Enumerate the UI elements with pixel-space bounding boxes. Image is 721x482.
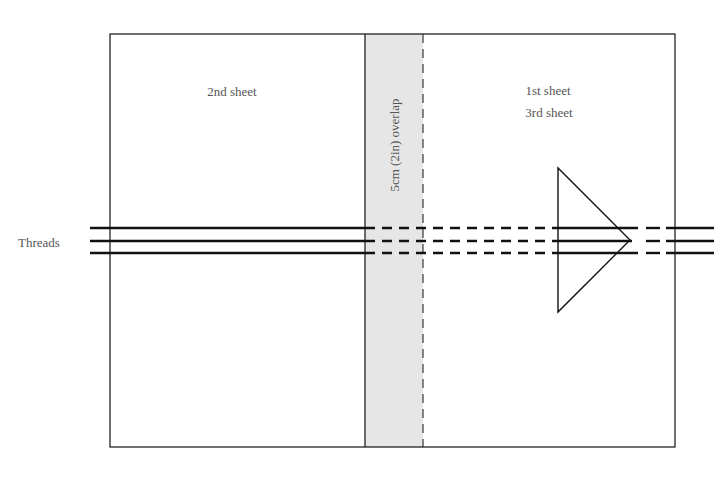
sheet-overlap-diagram: 2nd sheet 1st sheet 3rd sheet Threads 5c… <box>0 0 721 482</box>
threads-right-end <box>646 228 714 253</box>
label-2nd-sheet: 2nd sheet <box>207 84 257 99</box>
label-3rd-sheet: 3rd sheet <box>525 105 573 120</box>
label-1st-sheet: 1st sheet <box>525 83 571 98</box>
label-overlap: 5cm (2in) overlap <box>387 98 402 191</box>
threads-solid-left <box>90 228 365 253</box>
label-threads: Threads <box>18 235 60 250</box>
threads-solid-triangle <box>558 228 638 253</box>
